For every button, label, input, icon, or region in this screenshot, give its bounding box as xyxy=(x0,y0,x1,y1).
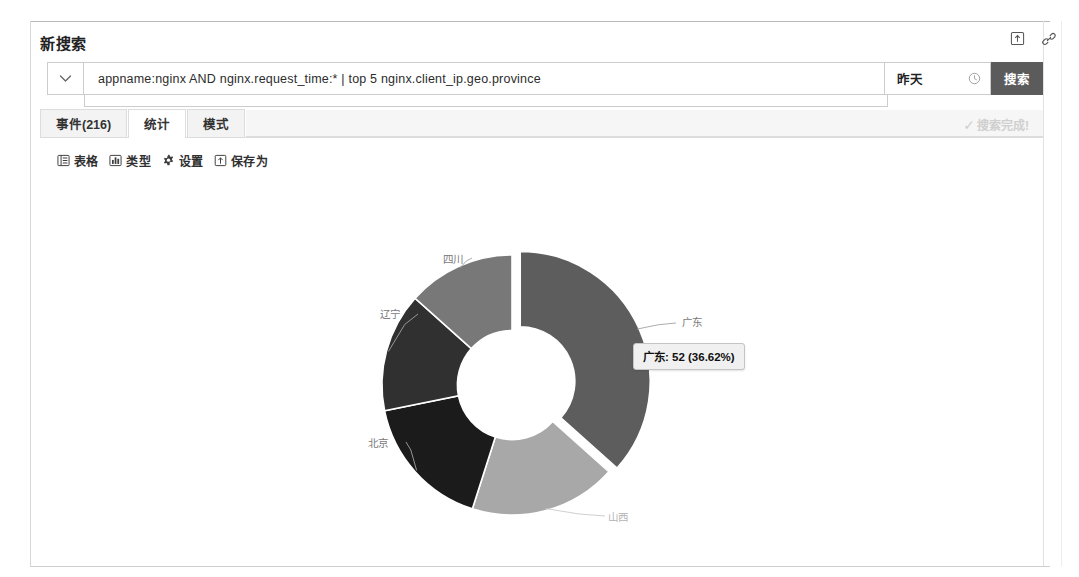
clock-icon xyxy=(968,72,981,85)
search-button[interactable]: 搜索 xyxy=(991,62,1043,95)
toolbar-save-as-label: 保存为 xyxy=(231,152,268,169)
window-right-edge xyxy=(1043,21,1044,566)
toolbar-settings[interactable]: 设置 xyxy=(162,152,203,169)
search-input[interactable]: appname:nginx AND nginx.request_time:* |… xyxy=(84,62,885,95)
window-top-divider xyxy=(30,21,1050,22)
slice-leader-line xyxy=(546,509,605,516)
time-range-picker[interactable]: 昨天 xyxy=(885,62,991,95)
search-status-label: 搜索完成! xyxy=(977,116,1029,133)
tab-strip-filler xyxy=(246,110,1043,137)
tab-statistics[interactable]: 统计 xyxy=(128,109,186,137)
check-icon: ✓ xyxy=(963,117,975,133)
window-bottom-divider xyxy=(30,566,1050,567)
slice-label-sichuan: 四川 xyxy=(443,251,464,266)
slice-label-liaoning: 辽宁 xyxy=(380,306,401,321)
toolbar-table-label: 表格 xyxy=(74,152,98,169)
time-range-label: 昨天 xyxy=(897,69,923,88)
slice-label-guangdong: 广东 xyxy=(682,314,703,329)
toolbar-chart-type[interactable]: 类型 xyxy=(109,152,150,169)
slice-label-shanxi: 山西 xyxy=(608,509,629,524)
search-app-window: 新搜索 appname:nginx AND nginx.request_time… xyxy=(0,0,1079,577)
save-icon xyxy=(214,154,227,167)
chart-canvas: 四川 辽宁 北京 山西 广东 广东: 52 (36.62%) xyxy=(40,175,1043,563)
slice-label-beijing: 北京 xyxy=(368,435,389,450)
chart-toolbar: 表格 类型 设置 xyxy=(57,152,268,169)
window-left-edge xyxy=(30,21,31,566)
result-tabs: 事件(216) 统计 模式 ✓ 搜索完成! xyxy=(40,110,1043,138)
toolbar-settings-label: 设置 xyxy=(179,152,203,169)
toolbar-chart-type-label: 类型 xyxy=(126,152,150,169)
search-dropdown-panel xyxy=(84,95,888,107)
tab-events[interactable]: 事件(216) xyxy=(40,109,127,137)
tab-patterns[interactable]: 模式 xyxy=(187,109,245,137)
search-status: ✓ 搜索完成! xyxy=(963,116,1029,133)
search-bar: appname:nginx AND nginx.request_time:* |… xyxy=(47,62,1043,95)
chart-type-icon xyxy=(109,154,122,167)
page-title: 新搜索 xyxy=(40,32,87,53)
gear-icon xyxy=(162,154,175,167)
toolbar-table[interactable]: 表格 xyxy=(57,152,98,169)
chevron-down-icon[interactable] xyxy=(47,62,84,95)
link-icon[interactable] xyxy=(1040,30,1057,47)
header-actions xyxy=(1009,30,1057,47)
donut-chart[interactable] xyxy=(40,175,1043,563)
table-icon xyxy=(57,154,70,167)
export-icon[interactable] xyxy=(1009,30,1026,47)
slice-leader-line xyxy=(637,323,676,329)
chart-tooltip: 广东: 52 (36.62%) xyxy=(633,343,745,370)
toolbar-save-as[interactable]: 保存为 xyxy=(214,152,268,169)
window-right-edge-outer xyxy=(1061,21,1062,566)
